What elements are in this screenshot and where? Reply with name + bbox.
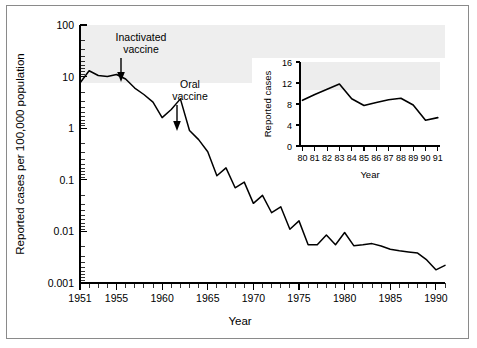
y-axis-title: Reported cases per 100,000 population: [14, 53, 26, 254]
x-tick-label-1985: 1985: [379, 292, 403, 304]
annotation-oral-vaccine: Oral vaccine: [172, 78, 208, 131]
polio-incidence-chart: 100 10 1 0.1 0.01 0.001 Reported cases p…: [0, 0, 477, 348]
inset-x-tick-label-87: 87: [384, 153, 394, 163]
inset-x-tick-label-82: 82: [322, 153, 332, 163]
x-tick-label-1970: 1970: [242, 292, 266, 304]
annotation-inactivated-line1: Inactivated: [116, 31, 167, 43]
inset-x-tick-label-85: 85: [359, 153, 369, 163]
inset-y-tick-label-0: 0: [287, 142, 292, 152]
x-tick-label-1990: 1990: [424, 292, 448, 304]
x-tick-label-1975: 1975: [287, 292, 311, 304]
annotation-oral-arrow-head: [173, 121, 181, 131]
x-tick-label-1951: 1951: [68, 292, 92, 304]
inset-x-tick-label-81: 81: [310, 153, 320, 163]
inset-x-tick-label-80: 80: [297, 153, 307, 163]
y-tick-label-0.01: 0.01: [54, 225, 75, 237]
inset-x-tick-label-88: 88: [396, 153, 406, 163]
inset-y-tick-label-8: 8: [287, 100, 292, 110]
inset-shade-band: [300, 62, 440, 90]
chart-svg: 100 10 1 0.1 0.01 0.001 Reported cases p…: [0, 0, 477, 348]
x-tick-label-1955: 1955: [105, 292, 129, 304]
y-tick-label-0.001: 0.001: [48, 277, 74, 289]
annotation-oral-line2: vaccine: [172, 90, 208, 102]
inset-x-axis-title: Year: [360, 169, 379, 180]
y-tick-label-100: 100: [56, 19, 74, 31]
inset-y-tick-label-4: 4: [287, 121, 292, 131]
inset-x-tick-label-90: 90: [420, 153, 430, 163]
inset-x-tick-label-89: 89: [408, 153, 418, 163]
annotation-inactivated-line2: vaccine: [123, 43, 159, 55]
inset-chart: 0 4 8 12 16 Reported cases 80 81: [252, 58, 447, 181]
x-axis-title: Year: [228, 315, 251, 327]
inset-y-axis-title: Reported cases: [262, 70, 273, 137]
annotation-oral-line1: Oral: [180, 78, 200, 90]
y-tick-label-1: 1: [68, 122, 74, 134]
inset-y-tick-label-12: 12: [282, 79, 292, 89]
x-axis-major-ticks: [80, 283, 436, 290]
inset-x-tick-label-86: 86: [371, 153, 381, 163]
y-tick-label-10: 10: [62, 71, 74, 83]
inset-y-tick-label-16: 16: [282, 58, 292, 68]
x-tick-label-1965: 1965: [196, 292, 220, 304]
inset-x-tick-label-84: 84: [347, 153, 357, 163]
inset-x-tick-label-91: 91: [433, 153, 443, 163]
inset-x-tick-label-83: 83: [334, 153, 344, 163]
x-tick-label-1960: 1960: [150, 292, 174, 304]
x-tick-label-1980: 1980: [333, 292, 357, 304]
y-tick-label-0.1: 0.1: [59, 174, 74, 186]
